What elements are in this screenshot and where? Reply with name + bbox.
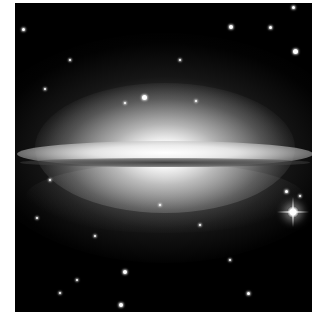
star bbox=[142, 95, 147, 100]
star bbox=[195, 100, 197, 102]
star bbox=[123, 270, 127, 274]
star bbox=[22, 28, 25, 31]
star bbox=[285, 190, 288, 193]
galaxy-image bbox=[15, 3, 312, 312]
star bbox=[49, 179, 51, 181]
dust-lane bbox=[20, 158, 310, 167]
star bbox=[292, 6, 295, 9]
star bbox=[269, 26, 272, 29]
star bbox=[229, 25, 233, 29]
star bbox=[94, 235, 96, 237]
star bbox=[69, 59, 71, 61]
star bbox=[44, 88, 46, 90]
star bbox=[124, 102, 126, 104]
star bbox=[159, 204, 161, 206]
star bbox=[293, 49, 298, 54]
star bbox=[179, 59, 181, 61]
star bbox=[229, 259, 231, 261]
star bbox=[199, 224, 201, 226]
star bbox=[59, 292, 61, 294]
bright-foreground-star bbox=[287, 206, 299, 218]
star bbox=[76, 279, 78, 281]
star bbox=[119, 303, 123, 307]
star bbox=[247, 292, 250, 295]
